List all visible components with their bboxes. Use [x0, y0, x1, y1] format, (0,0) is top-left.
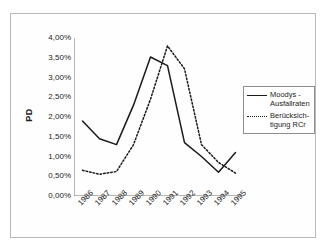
chart-legend: Moodys - Ausfallraten Berücksich- tigung…: [243, 86, 315, 134]
chart-plot-wrapper: PD 4,00%3,50%3,00%2,50%2,00%1,50%1,00%0,…: [11, 14, 317, 239]
y-tick-label: 2,50%: [29, 93, 71, 101]
y-tick-label: 2,00%: [29, 113, 71, 121]
legend-item-0: Moodys - Ausfallraten: [247, 91, 310, 108]
series-line-1: [83, 46, 236, 174]
y-tick-label: 1,00%: [29, 153, 71, 161]
legend-item-1: Berücksich- tigung RCr: [247, 112, 309, 129]
y-tick-label: 3,00%: [29, 74, 71, 82]
legend-label-1: Berücksich- tigung RCr: [270, 112, 309, 129]
y-tick-label: 0,00%: [29, 192, 71, 200]
plot-area: [74, 38, 244, 196]
legend-label-0: Moodys - Ausfallraten: [270, 91, 310, 108]
chart-svg: [74, 38, 244, 196]
solid-line-sample-icon: [247, 91, 267, 101]
y-tick-label: 0,50%: [29, 172, 71, 180]
y-tick-label: 1,50%: [29, 133, 71, 141]
dotted-line-sample-icon: [247, 112, 267, 122]
y-tick-label: 4,00%: [29, 34, 71, 42]
chart-figure: PD 4,00%3,50%3,00%2,50%2,00%1,50%1,00%0,…: [10, 13, 316, 238]
y-tick-label: 3,50%: [29, 54, 71, 62]
